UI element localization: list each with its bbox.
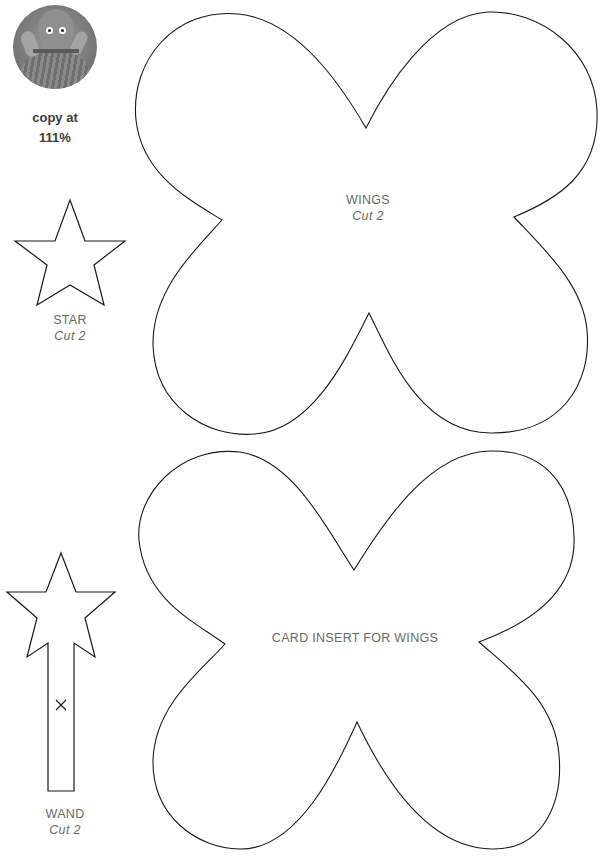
template-shapes — [0, 0, 601, 862]
card-insert-outline — [139, 451, 574, 849]
star-name: STAR — [20, 312, 120, 328]
wings-label: WINGS Cut 2 — [318, 192, 418, 224]
wand-instruction: Cut 2 — [15, 822, 115, 838]
card-insert-label: CARD INSERT FOR WINGS — [245, 630, 465, 646]
wings-name: WINGS — [318, 192, 418, 208]
wand-label: WAND Cut 2 — [15, 806, 115, 838]
star-outline — [15, 200, 125, 305]
wings-instruction: Cut 2 — [318, 208, 418, 224]
star-instruction: Cut 2 — [20, 328, 120, 344]
wand-name: WAND — [15, 806, 115, 822]
star-label: STAR Cut 2 — [20, 312, 120, 344]
wand-outline — [7, 553, 115, 791]
card-insert-name: CARD INSERT FOR WINGS — [245, 630, 465, 646]
